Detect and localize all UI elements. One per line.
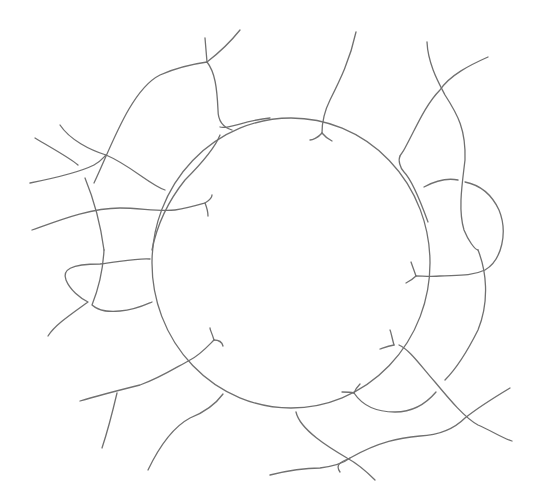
filament-left-down-2 [152, 135, 220, 250]
filament-top-center-hook-2 [322, 133, 332, 141]
filament-left-loop [48, 259, 150, 336]
filament-top-left-arch [94, 62, 232, 183]
filament-top-right-diag [400, 57, 488, 156]
filament-left-hook-tip-2 [205, 203, 208, 216]
center-circle [152, 118, 430, 408]
filament-right-lower-fiber [445, 250, 486, 380]
filament-bottom-hook-1 [354, 384, 360, 393]
filament-left-cross-1 [35, 138, 78, 165]
sketch-canvas [0, 0, 541, 503]
filament-lower-right-hook-2 [380, 345, 394, 349]
filament-right-loop [416, 179, 503, 276]
filament-lower-left-drop [102, 393, 117, 448]
filament-left-long-1 [30, 155, 106, 183]
filament-bottom-arc [354, 392, 436, 412]
sketch-strokes [30, 30, 512, 480]
filament-right-hook-1 [411, 262, 416, 276]
filament-top-right-long [427, 42, 478, 250]
filament-bottom-hook-2 [342, 392, 354, 393]
filament-top-left-spur [207, 30, 240, 62]
filament-lower-left-curve [148, 394, 223, 470]
filament-bottom-right-cross [338, 388, 510, 472]
filament-left-down-1 [85, 178, 104, 250]
filament-left-horizontal-hook [32, 203, 205, 230]
filament-left-cross-2 [60, 125, 165, 190]
filament-lower-right-diag [399, 345, 512, 441]
filament-top-right-junction [399, 156, 428, 222]
filament-lower-left-hook-2 [214, 340, 223, 346]
sketch-image: Pencil sketch of a circle surrounded by … [0, 0, 541, 503]
filament-bottom-lower-fiber [296, 412, 375, 480]
filament-lower-right-hook-1 [390, 330, 394, 345]
filament-top-center-fiber [322, 32, 356, 133]
filament-lower-left-branch [80, 340, 214, 401]
filament-top-center-hook-1 [310, 133, 322, 140]
filament-top-left-spur-2 [205, 38, 207, 62]
filament-right-hook-2 [406, 276, 416, 283]
filament-left-hook-tip-1 [205, 195, 212, 203]
filament-lower-left-hook-1 [210, 328, 214, 340]
